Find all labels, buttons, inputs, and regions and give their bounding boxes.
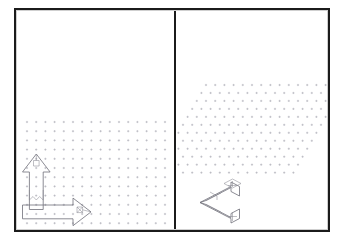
right-page-drawings: [176, 10, 328, 230]
right-arrow-orthographic: [23, 198, 92, 226]
up-arrow-orthographic: [23, 154, 51, 210]
arrows-isometric: [200, 179, 241, 223]
left-page-drawings: [16, 10, 174, 230]
page-spread-frame: up arrow: [14, 8, 330, 232]
page-gutter-divider: [174, 10, 176, 230]
right-page: isometric arrows: [176, 10, 328, 230]
screenshot-root: up arrow: [0, 0, 343, 245]
left-page: up arrow: [16, 10, 174, 230]
